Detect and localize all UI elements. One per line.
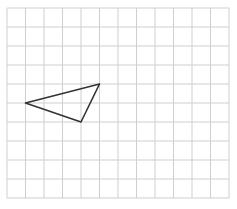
grid-lines (7, 8, 229, 198)
grid-diagram (0, 0, 237, 209)
